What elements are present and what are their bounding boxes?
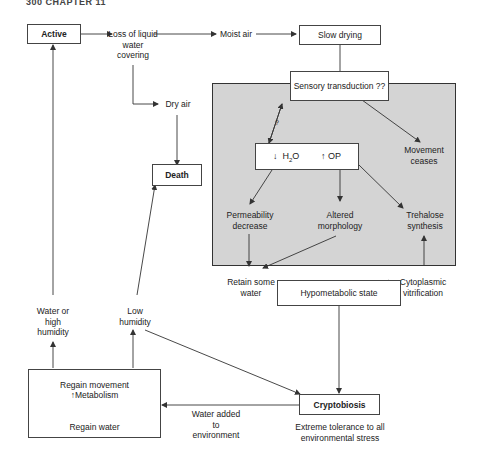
regain-water-label: Regain water: [29, 422, 160, 433]
op-increase: ↑ OP: [321, 151, 341, 161]
trehalose-label: Trehalose synthesis: [400, 210, 450, 231]
down-arrow-icon: ↓: [273, 151, 278, 161]
retain-water-label: Retain some water: [226, 277, 276, 298]
water-op-node: ↓ H2O ↑ OP: [255, 143, 359, 170]
vitrification-label: Cytoplasmic vitrification: [396, 277, 450, 298]
h2o-decrease: ↓ H2O: [273, 151, 299, 165]
cryptobiosis-node: Cryptobiosis: [299, 394, 380, 415]
active-node: Active: [27, 24, 81, 44]
water-high-humidity-label: Water or high humidity: [30, 306, 76, 338]
altered-morphology-label: Altered morphology: [313, 210, 367, 231]
movement-ceases-label: Movement ceases: [398, 145, 450, 166]
permeability-label: Permeability decrease: [225, 210, 275, 231]
slow-drying-node: Slow drying: [299, 25, 381, 45]
tolerance-label: Extreme tolerance to all environmental s…: [290, 422, 390, 443]
sensory-transduction-node: Sensory transduction ??: [290, 71, 389, 101]
up-arrow-icon: ↑: [321, 151, 326, 161]
dry-air-label: Dry air: [160, 99, 196, 110]
loss-of-water-label: Loss of liquid water covering: [108, 29, 158, 61]
recovery-node: Regain movement ↑Metabolism Regain water: [28, 369, 161, 438]
question-label: ?: [272, 118, 282, 129]
hypometabolic-node: Hypometabolic state: [277, 280, 401, 306]
low-humidity-label: Low humidity: [112, 306, 158, 327]
death-node: Death: [152, 164, 202, 186]
regain-movement-label: Regain movement: [29, 380, 160, 391]
moist-air-label: Moist air: [216, 29, 256, 40]
metabolism-label: ↑Metabolism: [29, 390, 160, 401]
water-added-label: Water added to environment: [188, 409, 244, 441]
